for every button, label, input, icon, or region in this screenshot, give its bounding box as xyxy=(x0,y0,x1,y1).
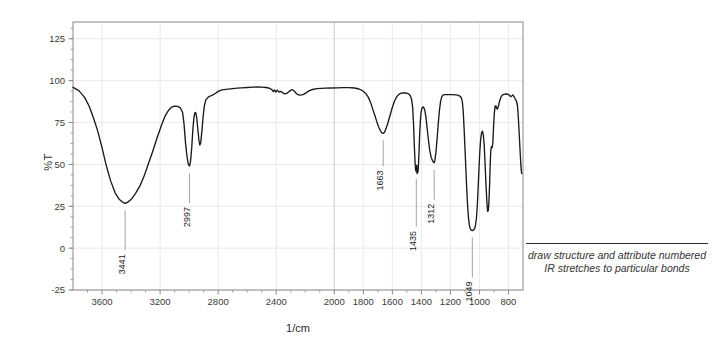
x-tick-label: 2800 xyxy=(208,296,229,307)
x-tick-label: 3600 xyxy=(91,296,112,307)
y-tick-label: 100 xyxy=(49,75,65,86)
y-tick-label: 0 xyxy=(60,243,65,254)
peak-label: 2997 xyxy=(182,207,192,227)
spectrum-trace xyxy=(73,87,522,231)
tick-marks xyxy=(69,28,509,294)
axes xyxy=(73,22,523,290)
y-tick-label: 75 xyxy=(54,117,65,128)
peak-label: 1049 xyxy=(464,282,474,302)
y-tick-label: 50 xyxy=(54,159,65,170)
plot-frame xyxy=(73,22,523,290)
peak-label: 1663 xyxy=(375,170,385,190)
y-tick-label: 125 xyxy=(49,33,65,44)
y-tick-label: -25 xyxy=(51,284,65,295)
x-tick-label: 2400 xyxy=(266,296,287,307)
peak-label: 1312 xyxy=(426,204,436,224)
peak-label: 1435 xyxy=(408,231,418,251)
annotation-text: draw structure and attribute numbered IR… xyxy=(524,249,710,276)
spectrum-svg: 3600320028002400200018001600140012001000… xyxy=(0,0,540,347)
side-annotation: draw structure and attribute numbered IR… xyxy=(524,243,710,276)
x-tick-label: 2000 xyxy=(324,296,345,307)
x-tick-label: 800 xyxy=(501,296,517,307)
peak-label: 3441 xyxy=(117,254,127,274)
y-axis-title: %T xyxy=(42,132,54,192)
y-tick-label: 25 xyxy=(54,201,65,212)
x-tick-label: 1200 xyxy=(440,296,461,307)
x-tick-label: 1600 xyxy=(382,296,403,307)
x-tick-label: 3200 xyxy=(150,296,171,307)
x-tick-label: 1400 xyxy=(411,296,432,307)
annotation-rule xyxy=(526,243,708,244)
x-tick-label: 1800 xyxy=(353,296,374,307)
x-axis-title: 1/cm xyxy=(233,322,363,334)
grid-lines xyxy=(73,22,523,290)
ir-spectrum-page: 3600320028002400200018001600140012001000… xyxy=(0,0,715,347)
ir-spectrum-chart: 3600320028002400200018001600140012001000… xyxy=(0,0,540,347)
data-trace xyxy=(73,87,522,231)
